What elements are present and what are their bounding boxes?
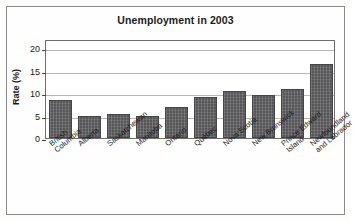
x-axis-labels: British ColumbiaAlbertaSaskatchewanManit… (45, 140, 335, 216)
bar-slot (162, 41, 191, 138)
y-tick-label: 15 (16, 67, 40, 77)
bar-slot (191, 41, 220, 138)
y-tick-label: 5 (16, 112, 40, 122)
chart-title: Unemployment in 2003 (0, 14, 351, 26)
plot-area: 05101520 (45, 40, 335, 139)
bar-series (46, 41, 334, 138)
y-tick-label: 20 (16, 44, 40, 54)
y-tick-label: 0 (16, 134, 40, 144)
bar-slot (75, 41, 104, 138)
y-tick-label: 10 (16, 89, 40, 99)
